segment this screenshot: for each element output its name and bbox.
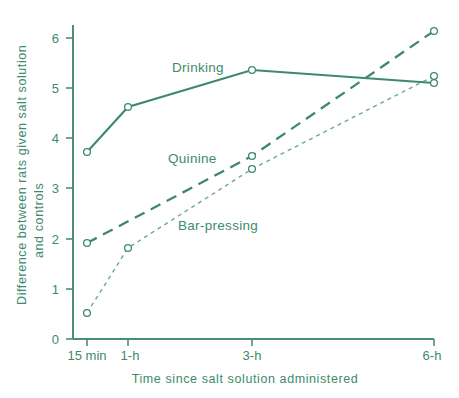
bar-pressing-line [87, 76, 434, 313]
x-tick-label-3h: 3-h [243, 348, 262, 363]
bar-pressing-point-3h [249, 166, 256, 173]
quinine-line [87, 31, 434, 243]
series-quinine [84, 28, 438, 247]
x-axis: 15 min 1-h 3-h 6-h Time since salt solut… [67, 339, 441, 386]
y-tick-label-6: 6 [52, 31, 59, 46]
quinine-point-6h [431, 28, 438, 35]
series-label-drinking: Drinking [172, 60, 224, 75]
quinine-point-15min [84, 240, 91, 247]
y-axis: 6 5 4 3 2 1 0 Difference between rats gi… [15, 25, 73, 347]
y-tick-label-4: 4 [52, 131, 59, 146]
series-label-bar-pressing: Bar-pressing [178, 218, 258, 233]
y-tick-marks [66, 38, 73, 339]
series-annotations: Drinking Quinine Bar-pressing [168, 60, 258, 233]
y-tick-label-5: 5 [52, 81, 59, 96]
chart-svg: 6 5 4 3 2 1 0 Difference between rats gi… [0, 0, 459, 398]
drinking-line [87, 70, 434, 152]
chart-figure: 6 5 4 3 2 1 0 Difference between rats gi… [0, 0, 459, 398]
bar-pressing-point-6h [431, 73, 438, 80]
series-label-quinine: Quinine [168, 151, 217, 166]
x-tick-label-15min: 15 min [67, 348, 106, 363]
drinking-point-15min [84, 149, 91, 156]
y-tick-label-2: 2 [52, 232, 59, 247]
y-tick-label-1: 1 [52, 282, 59, 297]
series-drinking [84, 67, 438, 156]
bar-pressing-point-1h [125, 245, 132, 252]
x-axis-title: Time since salt solution administered [132, 372, 359, 386]
drinking-point-1h [125, 104, 132, 111]
x-tick-marks [87, 339, 434, 346]
x-tick-label-1h: 1-h [121, 348, 140, 363]
y-axis-title-line1: Difference between rats given salt solut… [15, 45, 29, 305]
drinking-point-6h [431, 80, 438, 87]
y-tick-label-3: 3 [52, 181, 59, 196]
x-tick-label-6h: 6-h [423, 348, 442, 363]
y-tick-label-0: 0 [52, 332, 59, 347]
y-axis-title-line2: and controls [32, 183, 46, 258]
series-bar-pressing [84, 73, 438, 317]
quinine-point-3h [249, 153, 256, 160]
drinking-point-3h [249, 67, 256, 74]
bar-pressing-point-15min [84, 310, 91, 317]
